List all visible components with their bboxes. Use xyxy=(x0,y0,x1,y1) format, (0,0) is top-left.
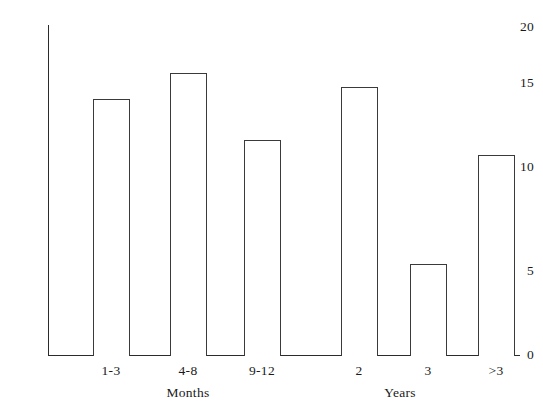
bar-4-8 xyxy=(170,73,207,356)
x-tick-label-gt3: >3 xyxy=(489,363,504,378)
group-label-years: Years xyxy=(384,385,416,400)
y-tick-label-15: 15 xyxy=(499,76,543,90)
y-axis-line xyxy=(48,25,49,356)
x-tick-label-1-3: 1-3 xyxy=(102,363,121,378)
bar-1-3 xyxy=(93,99,130,356)
bar-3 xyxy=(410,264,447,356)
group-label-months: Months xyxy=(166,385,209,400)
bar-chart: 20 15 10 5 0 1-3 4-8 9-12 2 3 >3 Months … xyxy=(0,0,543,415)
x-tick-label-3: 3 xyxy=(424,363,431,378)
x-tick-label-4-8: 4-8 xyxy=(179,363,198,378)
x-tick-label-2: 2 xyxy=(355,363,362,378)
bar-gt3 xyxy=(478,155,515,356)
bar-9-12 xyxy=(244,140,281,356)
y-tick-label-20: 20 xyxy=(499,20,543,34)
x-tick-label-9-12: 9-12 xyxy=(249,363,275,378)
bar-2 xyxy=(341,87,378,356)
